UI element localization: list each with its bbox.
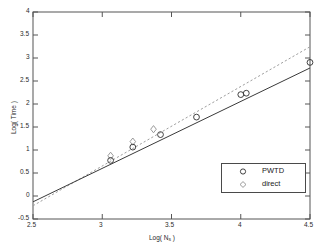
x-axis-title-tail: ) [171, 234, 175, 241]
x-axis-title-main: Log( N [149, 234, 169, 241]
y-tick-label: 1 [26, 146, 30, 153]
legend-label-direct: direct [262, 180, 280, 188]
x-tick-label: 2.5 [27, 222, 36, 229]
legend[interactable]: PWTD direct [221, 163, 306, 193]
y-axis-title: Log( Time ) [11, 101, 18, 134]
legend-label-pwtd: PWTD [262, 167, 284, 175]
plot-area [0, 0, 322, 249]
y-tick-label: -0.5 [18, 215, 29, 222]
y-tick-label: 0.5 [20, 169, 29, 176]
y-tick-label: 1.5 [20, 123, 29, 130]
y-tick-label: 2.5 [20, 77, 29, 84]
series-pwtd-markers [108, 60, 313, 164]
circle-marker-icon [230, 165, 256, 178]
y-tick-label: 0 [26, 192, 30, 199]
x-tick-label: 4.5 [304, 222, 313, 229]
x-axis-title: Log( Ns ) [149, 235, 175, 242]
y-tick-label: 4 [26, 8, 30, 15]
x-tick-label: 3.5 [165, 222, 174, 229]
y-tick-label: 3 [26, 54, 30, 61]
figure-canvas: 2.5 3 3.5 4 4.5 -0.5 0 0.5 1 1.5 2 2.5 3… [0, 0, 322, 249]
y-tick-label: 3.5 [20, 31, 29, 38]
legend-entry-pwtd[interactable]: PWTD [222, 165, 305, 178]
x-tick-label: 3 [99, 222, 103, 229]
diamond-marker-icon [230, 178, 256, 191]
legend-entry-direct[interactable]: direct [222, 178, 305, 191]
y-tick-label: 2 [26, 100, 30, 107]
x-tick-label: 4 [238, 222, 242, 229]
